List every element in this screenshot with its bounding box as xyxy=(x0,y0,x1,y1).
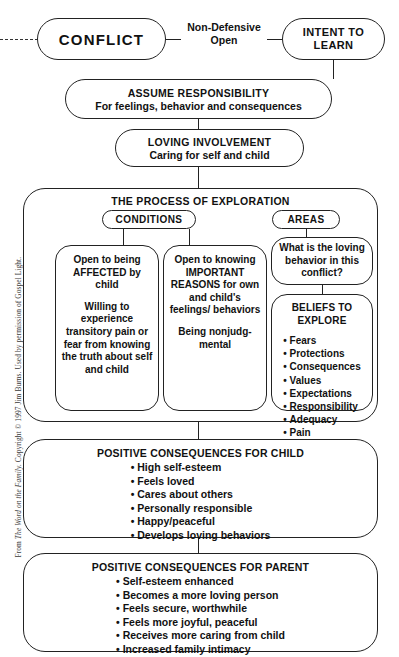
list-item: Increased family intimacy xyxy=(116,643,285,657)
node-areas[interactable]: AREAS xyxy=(272,210,340,229)
node-assume-responsibility[interactable]: ASSUME RESPONSIBILITY For feelings, beha… xyxy=(65,79,332,119)
edge-label-line2: Open xyxy=(183,34,265,47)
node-condition-affected[interactable]: Open to being AFFECTED by child Willing … xyxy=(55,245,159,411)
list-item: Fears xyxy=(283,334,360,347)
list-item: Consequences xyxy=(283,360,360,373)
node-loving-title: LOVING INVOLVEMENT xyxy=(148,136,272,148)
connector-intent-to-assume xyxy=(333,60,334,79)
node-assume-subtitle: For feelings, behavior and consequences xyxy=(95,100,302,112)
node-areas-title: AREAS xyxy=(287,214,324,225)
areas-question-text: What is the loving behavior in this conf… xyxy=(276,242,368,280)
list-item: High self-esteem xyxy=(131,461,271,475)
credit-title: The Word on the Family. xyxy=(14,464,23,539)
edge-label-non-defensive-open: Non-Defensive Open xyxy=(181,21,267,46)
connector-areas-to-question xyxy=(306,229,307,237)
condition-affected-para1: Open to being AFFECTED by child xyxy=(61,254,153,292)
child-outcomes-title: POSITIVE CONSEQUENCES FOR CHILD xyxy=(97,447,304,459)
node-conditions[interactable]: CONDITIONS xyxy=(102,210,196,229)
connector-loving-to-process xyxy=(198,167,199,188)
credit-prefix: From xyxy=(14,539,23,557)
flowchart-canvas: CONFLICT Non-Defensive Open INTENT TO LE… xyxy=(0,0,399,657)
incoming-dashed-connector xyxy=(0,39,38,40)
list-item: Happy/peaceful xyxy=(131,515,271,529)
condition-affected-para2: Willing to experience transitory pain or… xyxy=(61,301,153,377)
node-loving-subtitle: Caring for self and child xyxy=(149,149,269,161)
node-assume-title: ASSUME RESPONSIBILITY xyxy=(128,87,270,99)
connector-question-to-beliefs xyxy=(322,285,323,294)
list-item: Responsibility xyxy=(283,400,360,413)
condition-reasons-para2: Being nonjudg- mental xyxy=(169,326,261,351)
list-item: Expectations xyxy=(283,387,360,400)
parent-outcomes-list: Self-esteem enhanced Becomes a more lovi… xyxy=(116,575,285,657)
node-loving-involvement[interactable]: LOVING INVOLVEMENT Caring for self and c… xyxy=(115,129,304,167)
list-item: Becomes a more loving person xyxy=(116,589,285,603)
node-beliefs-title: BELIEFS TO EXPLORE xyxy=(272,302,372,327)
node-intent-to-learn[interactable]: INTENT TO LEARN xyxy=(282,18,385,60)
connector-conditions-to-right xyxy=(189,229,190,245)
list-item: Feels loved xyxy=(131,475,271,489)
list-item: Values xyxy=(283,374,360,387)
node-conditions-title: CONDITIONS xyxy=(116,214,183,225)
edge-label-line1: Non-Defensive xyxy=(183,21,265,34)
list-item: Protections xyxy=(283,347,360,360)
list-item: Adequacy xyxy=(283,413,360,426)
credit-suffix: Copyright © 1997 Jim Burns. Used by perm… xyxy=(14,257,23,464)
list-item: Develops loving behaviors xyxy=(131,529,271,543)
list-item: Pain xyxy=(283,426,360,439)
node-positive-consequences-parent[interactable]: POSITIVE CONSEQUENCES FOR PARENT Self-es… xyxy=(23,553,378,652)
list-item: Feels secure, worthwhile xyxy=(116,602,285,616)
list-item: Personally responsible xyxy=(131,502,271,516)
list-item: Cares about others xyxy=(131,488,271,502)
list-item: Receives more caring from child xyxy=(116,629,285,643)
node-intent-title: INTENT TO LEARN xyxy=(283,26,384,52)
node-condition-important-reasons[interactable]: Open to knowing IMPORTANT REASONS for ow… xyxy=(163,245,267,411)
node-process-title: THE PROCESS OF EXPLORATION xyxy=(111,195,290,207)
connector-conditions-to-left xyxy=(123,229,124,245)
node-positive-consequences-child[interactable]: POSITIVE CONSEQUENCES FOR CHILD High sel… xyxy=(23,439,378,538)
copyright-credit: From The Word on the Family. Copyright ©… xyxy=(14,228,23,558)
connector-process-to-child xyxy=(198,422,199,439)
list-item: Self-esteem enhanced xyxy=(116,575,285,589)
node-beliefs-to-explore[interactable]: BELIEFS TO EXPLORE Fears Protections Con… xyxy=(271,294,373,411)
beliefs-list: Fears Protections Consequences Values Ex… xyxy=(283,334,360,440)
node-areas-question[interactable]: What is the loving behavior in this conf… xyxy=(271,237,373,285)
condition-reasons-para1: Open to knowing IMPORTANT REASONS for ow… xyxy=(169,254,261,317)
child-outcomes-list: High self-esteem Feels loved Cares about… xyxy=(131,461,271,543)
list-item: Feels more joyful, peaceful xyxy=(116,616,285,630)
node-conflict-title: CONFLICT xyxy=(59,31,144,48)
node-conflict[interactable]: CONFLICT xyxy=(37,18,166,60)
parent-outcomes-title: POSITIVE CONSEQUENCES FOR PARENT xyxy=(92,561,309,573)
